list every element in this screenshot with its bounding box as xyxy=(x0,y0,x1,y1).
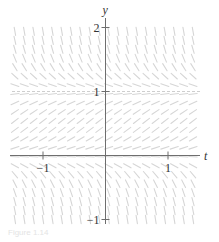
slope-mark xyxy=(170,101,178,104)
slope-mark xyxy=(135,64,139,71)
slope-mark xyxy=(161,101,169,104)
slope-mark xyxy=(21,110,28,115)
slope-mark xyxy=(117,198,119,206)
slope-mark xyxy=(117,206,119,214)
slope-mark xyxy=(151,94,159,95)
slope-mark xyxy=(133,147,141,150)
slope-mark xyxy=(133,110,140,115)
slope-mark xyxy=(59,73,65,79)
slope-mark xyxy=(123,94,131,95)
slope-mark xyxy=(79,180,83,187)
slope-mark xyxy=(51,45,53,53)
slope-mark xyxy=(163,189,166,197)
slope-mark xyxy=(189,101,197,104)
slope-mark xyxy=(77,147,85,150)
slope-mark xyxy=(97,64,101,71)
slope-mark xyxy=(41,54,44,62)
slope-mark xyxy=(49,110,56,115)
slope-mark xyxy=(173,54,176,62)
slope-mark xyxy=(52,27,53,35)
slope-mark xyxy=(11,127,18,132)
slope-mark xyxy=(77,127,84,132)
slope-mark xyxy=(108,36,110,44)
slope-mark xyxy=(142,157,150,158)
slope-mark xyxy=(133,84,141,87)
slope-mark xyxy=(173,206,175,214)
slope-mark xyxy=(108,27,109,35)
slope-mark xyxy=(77,137,84,141)
slope-mark xyxy=(86,127,93,132)
slope-mark xyxy=(24,215,25,223)
slope-mark xyxy=(49,127,56,132)
slope-mark xyxy=(20,157,28,158)
slope-mark xyxy=(89,36,91,44)
slope-mark xyxy=(142,94,150,95)
y-axis-label: y xyxy=(102,3,109,17)
slope-mark xyxy=(126,36,128,44)
slope-mark xyxy=(114,94,122,95)
slope-mark xyxy=(77,110,84,115)
slope-mark xyxy=(42,189,45,197)
slope-mark xyxy=(89,27,90,35)
slope-mark xyxy=(161,147,169,150)
slope-mark xyxy=(23,45,25,53)
slope-mark xyxy=(67,164,74,168)
slope-mark xyxy=(116,64,120,71)
slope-mark xyxy=(60,180,64,187)
t-tick-label: −1 xyxy=(37,161,50,175)
slope-mark xyxy=(67,84,75,87)
slope-mark xyxy=(124,73,130,79)
slope-mark xyxy=(49,118,56,123)
t-tick-label: 1 xyxy=(165,161,171,175)
slope-mark xyxy=(88,54,91,62)
slope-mark xyxy=(152,110,159,115)
slope-field-diagram: −1121−1 t y xyxy=(0,0,219,242)
slope-mark xyxy=(39,84,47,87)
slope-mark xyxy=(12,171,17,177)
slope-mark xyxy=(143,110,150,115)
slope-mark xyxy=(22,171,27,177)
slope-mark xyxy=(164,45,166,53)
slope-mark xyxy=(11,84,19,87)
slope-mark xyxy=(172,171,177,177)
slope-mark xyxy=(153,64,157,71)
slope-mark xyxy=(183,27,184,35)
slope-mark xyxy=(88,64,92,71)
slope-mark xyxy=(98,189,101,197)
slope-mark xyxy=(42,206,44,214)
slope-mark xyxy=(40,110,47,115)
slope-mark xyxy=(39,94,47,95)
slope-mark xyxy=(14,215,15,223)
slope-mark xyxy=(68,73,74,79)
slope-mark xyxy=(181,64,185,71)
slope-mark xyxy=(77,118,84,123)
slope-mark xyxy=(123,147,131,150)
slope-mark xyxy=(40,73,46,79)
slope-mark xyxy=(49,137,56,141)
slope-mark xyxy=(192,189,195,197)
slope-mark xyxy=(51,36,53,44)
slope-mark xyxy=(67,101,75,104)
slope-mark xyxy=(11,137,18,141)
slope-mark xyxy=(152,127,159,132)
slope-mark xyxy=(116,180,120,187)
slope-mark xyxy=(69,180,73,187)
slope-mark xyxy=(11,157,19,158)
slope-mark xyxy=(114,101,122,104)
slope-mark xyxy=(32,180,36,187)
slope-mark xyxy=(124,164,131,168)
slope-mark xyxy=(154,180,158,187)
slope-mark xyxy=(48,147,56,150)
slope-mark xyxy=(23,206,25,214)
slope-mark xyxy=(70,198,72,206)
slope-mark xyxy=(49,164,56,168)
slope-mark xyxy=(78,64,82,71)
slope-mark xyxy=(152,73,158,79)
slope-mark xyxy=(145,215,146,223)
slope-mark xyxy=(172,64,176,71)
slope-mark xyxy=(180,101,188,104)
slope-mark xyxy=(105,127,112,132)
slope-mark xyxy=(114,84,122,87)
slope-mark xyxy=(23,54,26,62)
slope-mark xyxy=(61,36,63,44)
